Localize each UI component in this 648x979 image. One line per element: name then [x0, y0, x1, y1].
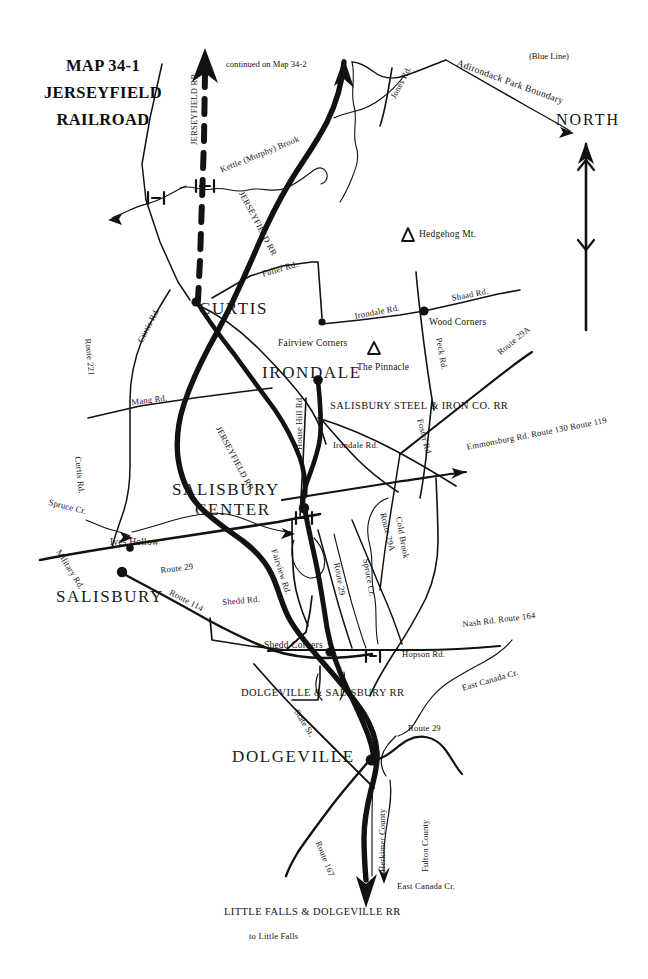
the-pinnacle-triangle-icon: [368, 342, 380, 354]
place-label-shedd-corners: Shedd Corners: [264, 641, 323, 651]
town-label-curtis: CURTIS: [199, 300, 268, 318]
map-canvas: [0, 0, 648, 979]
place-label-the-pinnacle: The Pinnacle: [357, 363, 409, 373]
node-shedd-corners: [325, 647, 334, 656]
map-title-line-1: MAP 34-1: [28, 56, 178, 76]
map-title-line-3: RAILROAD: [28, 110, 178, 130]
continued-on-map-note: continued on Map 34-2: [226, 60, 306, 69]
to-little-falls-note: to Little Falls: [249, 932, 298, 941]
road-label-irondale-rd-lower: Irondale Rd.: [333, 441, 378, 450]
salisbury-steel-iron-rr-label: SALISBURY STEEL & IRON CO. RR: [330, 400, 508, 411]
node-salisbury: [117, 567, 127, 577]
place-label-ives-hollow: Ives Hollow: [110, 538, 159, 548]
node-irondale-jct: [318, 318, 325, 325]
road-label-house-hill-rd: House Hill Rd.: [295, 395, 304, 450]
north-label: NORTH: [556, 112, 620, 129]
road-label-route-29-dolgeville: Route 29: [408, 724, 441, 733]
node-dolgeville: [366, 755, 377, 766]
town-label-salisbury: SALISBURY: [56, 588, 164, 606]
node-salisbury-center: [299, 503, 309, 513]
blue-line-label: (Blue Line): [529, 52, 569, 61]
town-label-dolgeville: DOLGEVILLE: [232, 748, 355, 766]
railroad-map: MAP 34-1 JERSEYFIELD RAILROAD continued …: [0, 0, 648, 979]
road-label-hopson-rd: Hopson Rd.: [402, 650, 445, 659]
upper-left-stream-arrowhead: [108, 214, 122, 225]
jerseyfield-rr-curtis-branch: [196, 300, 305, 496]
dolgeville-salisbury-rr-label: DOLGEVILLE & SALISBURY RR: [241, 687, 404, 698]
town-label-irondale: IRONDALE: [262, 364, 362, 382]
place-label-fairview-corners: Fairview Corners: [278, 339, 347, 349]
peck-rd-road: [416, 272, 434, 410]
map-title-line-2: JERSEYFIELD: [28, 83, 178, 103]
county-label-herkimer: Herkimer County: [378, 809, 387, 872]
little-falls-dolgeville-rr-label: LITTLE FALLS & DOLGEVILLE RR: [224, 906, 401, 917]
hedgehog-mt-triangle-icon: [402, 228, 414, 241]
node-wood-corners: [419, 306, 428, 315]
route-29-dolgeville-road: [372, 737, 462, 774]
town-label-salisbury-center-line1: SALISBURY: [172, 481, 280, 499]
jerseyfield-rr-label-dashed: JERSEYFIELD RR: [190, 74, 199, 145]
town-label-salisbury-center-line2: CENTER: [195, 501, 271, 519]
jerseyfield-rr-north-arrowhead: [334, 58, 354, 88]
irondale-rd-lower-road: [322, 420, 398, 492]
dolgeville-salisbury-rr-line: [254, 664, 374, 788]
north-arrow-icon: [578, 142, 594, 330]
place-label-hedgehog-mt: Hedgehog Mt.: [419, 230, 476, 240]
place-label-wood-corners: Wood Corners: [429, 318, 486, 328]
map-title-block: MAP 34-1 JERSEYFIELD RAILROAD: [28, 56, 178, 137]
water-label-east-canada-cr-lower: East Canada Cr.: [397, 882, 455, 891]
county-label-fulton: Fulton County: [421, 819, 430, 872]
